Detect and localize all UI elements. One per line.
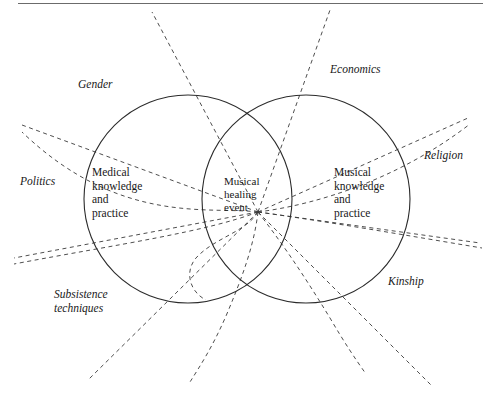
intersection-label: Musical healing event	[224, 175, 286, 214]
dashed-line-loop-lower-left	[190, 212, 258, 300]
circle-right-label: Musical knowledge and practice	[334, 166, 418, 220]
figure-container: Medical knowledge and practice Musical h…	[0, 0, 495, 402]
domain-label-economics: Economics	[330, 63, 380, 77]
domain-label-politics: Politics	[20, 175, 55, 189]
domain-label-subsistence-techniques: Subsistence techniques	[54, 288, 144, 315]
domain-label-religion: Religion	[424, 149, 463, 163]
domain-label-gender: Gender	[78, 78, 113, 92]
circle-left-label: Medical knowledge and practice	[92, 166, 170, 220]
domain-label-kinship: Kinship	[388, 275, 424, 289]
